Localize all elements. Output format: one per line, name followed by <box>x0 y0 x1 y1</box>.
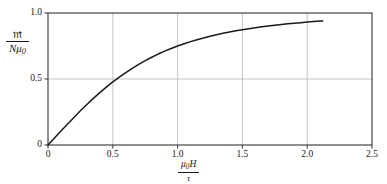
x-tick-label: 2.5 <box>366 150 378 160</box>
y-axis-label: 𝔪 Nμ0 <box>6 28 29 56</box>
x-tick-marks <box>45 13 373 149</box>
chart-canvas <box>0 0 387 184</box>
figure-container: 00.51.01.52.02.500.51.0 𝔪 Nμ0 μ0H τ <box>0 0 387 184</box>
x-axis-label-denominator: τ <box>178 173 199 183</box>
y-axis-label-fraction: 𝔪 Nμ0 <box>6 28 29 56</box>
x-axis-label: μ0H τ <box>178 160 199 182</box>
data-curve <box>48 21 323 145</box>
x-axis-numerator-h: H <box>189 159 196 169</box>
x-axis-label-numerator: μ0H <box>178 160 199 173</box>
x-tick-label: 0.5 <box>107 150 119 160</box>
x-tick-label: 0 <box>46 150 51 160</box>
y-axis-denominator-subscript: 0 <box>22 47 26 56</box>
x-axis-label-fraction: μ0H τ <box>178 160 199 182</box>
data-curve-group <box>48 21 323 145</box>
gridlines-group <box>48 13 372 145</box>
y-tick-label: 0.5 <box>0 74 42 84</box>
x-tick-label: 1.5 <box>236 150 248 160</box>
x-tick-label: 2.0 <box>301 150 313 160</box>
y-axis-label-numerator: 𝔪 <box>6 28 29 42</box>
y-tick-label: 0 <box>0 140 42 150</box>
y-axis-denominator-text: Nμ <box>9 42 22 54</box>
y-tick-label: 1.0 <box>0 8 42 18</box>
y-axis-label-denominator: Nμ0 <box>6 42 29 56</box>
